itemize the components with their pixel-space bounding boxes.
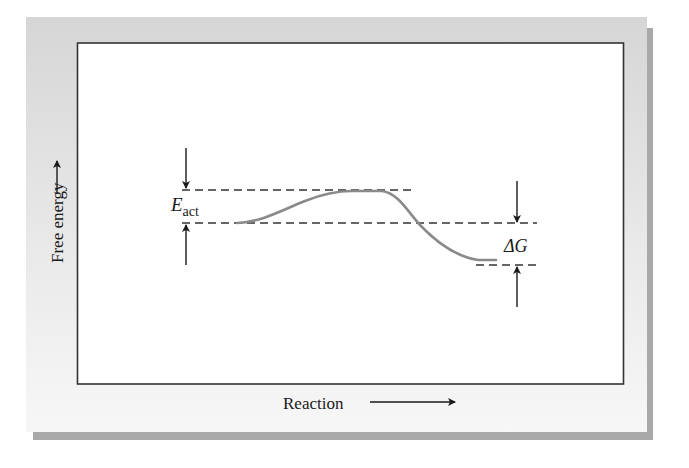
x-axis-label: Reaction <box>283 394 344 413</box>
panel-shadow-bottom <box>33 432 653 440</box>
y-axis-label: Free energy <box>48 182 67 263</box>
panel-shadow-right <box>647 28 653 440</box>
delta-g-label: ΔG <box>503 236 528 256</box>
energy-diagram: Eact ΔG Free energy Reaction <box>0 0 689 468</box>
plot-frame <box>78 43 624 384</box>
eact-symbol: E <box>170 194 183 215</box>
eact-subscript: act <box>183 204 199 219</box>
